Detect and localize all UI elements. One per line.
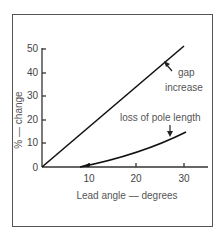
x-axis xyxy=(42,163,208,167)
series-loss-of-pole-length xyxy=(80,132,186,167)
loss-arrow-icon xyxy=(167,125,173,137)
annotation-loss-of-pole-length: loss of pole length xyxy=(120,112,201,123)
y-tick-30: 30 xyxy=(27,90,39,101)
y-tick-40: 40 xyxy=(27,67,39,78)
y-tick-20: 20 xyxy=(27,114,39,125)
x-tick-20: 20 xyxy=(130,173,142,184)
chart-canvas: 50 40 30 20 10 0 10 20 30 Lead angle — d… xyxy=(0,0,224,240)
series-gap-increase xyxy=(42,46,184,167)
x-tick-10: 10 xyxy=(83,173,95,184)
y-axis-title: % — change xyxy=(13,91,24,149)
x-axis-title: Lead angle — degrees xyxy=(76,190,177,201)
y-tick-50: 50 xyxy=(27,43,39,54)
annotation-increase: increase xyxy=(165,82,203,93)
gap-increase-arrow-icon xyxy=(164,61,172,71)
y-tick-0: 0 xyxy=(32,162,38,173)
y-axis xyxy=(42,48,46,167)
y-tick-10: 10 xyxy=(27,137,39,148)
x-tick-30: 30 xyxy=(178,173,190,184)
annotation-gap: gap xyxy=(178,67,195,78)
